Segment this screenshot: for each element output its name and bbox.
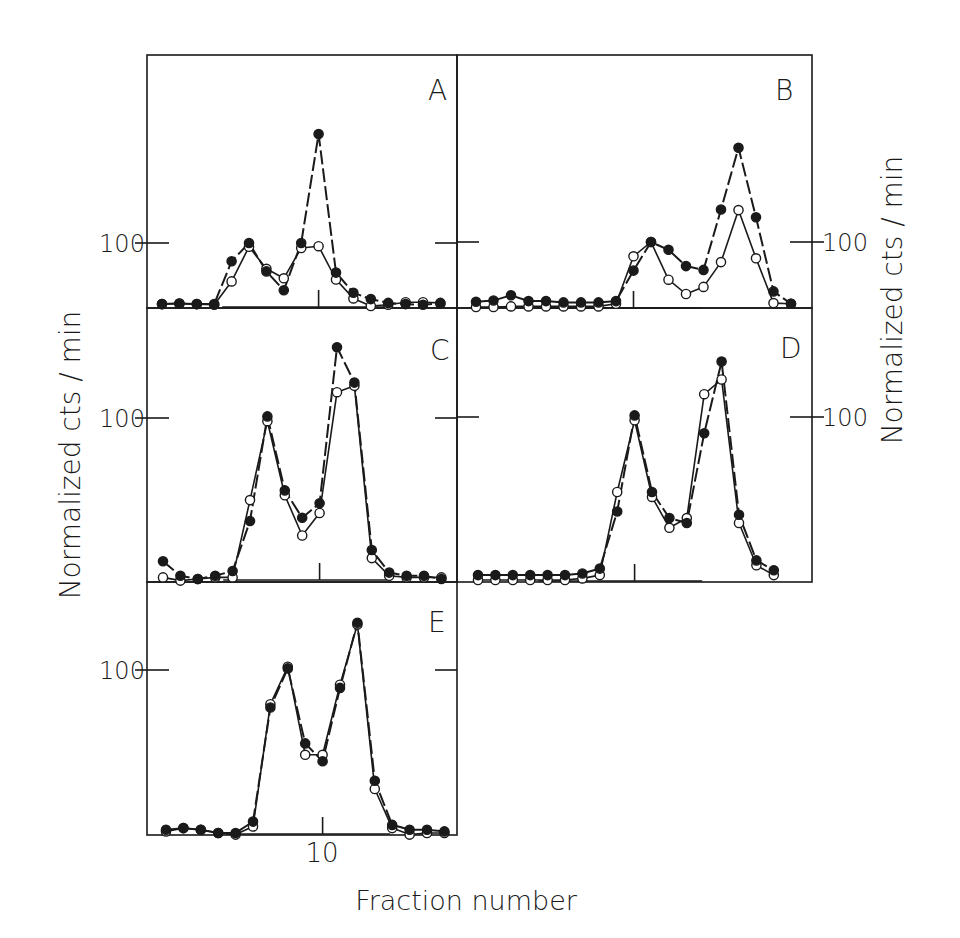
data-point-open bbox=[716, 258, 725, 267]
data-point-filled bbox=[227, 257, 236, 266]
y-tick-label-100: 100 bbox=[822, 229, 868, 257]
data-point-filled bbox=[353, 618, 362, 627]
data-point-open bbox=[158, 573, 167, 582]
data-point-filled bbox=[179, 824, 188, 833]
panel-frame bbox=[457, 308, 812, 582]
data-point-filled bbox=[349, 288, 358, 297]
data-point-filled bbox=[647, 487, 656, 496]
data-point-filled bbox=[734, 143, 743, 152]
data-point-filled bbox=[263, 412, 272, 421]
data-point-filled bbox=[176, 571, 185, 580]
data-point-filled bbox=[248, 817, 257, 826]
y-tick-label-100: 100 bbox=[99, 405, 145, 433]
data-point-filled bbox=[769, 566, 778, 575]
data-point-filled bbox=[440, 827, 449, 836]
series-line-filled bbox=[163, 347, 441, 579]
panel-label-b: B bbox=[775, 74, 793, 107]
panel-frame bbox=[147, 308, 457, 582]
y-tick-label-100: 100 bbox=[99, 657, 145, 685]
data-point-filled bbox=[298, 513, 307, 522]
data-point-open bbox=[279, 274, 288, 283]
data-point-filled bbox=[682, 518, 691, 527]
data-point-filled bbox=[367, 545, 376, 554]
data-point-filled bbox=[335, 683, 344, 692]
data-point-filled bbox=[161, 825, 170, 834]
data-point-filled bbox=[559, 298, 568, 307]
data-point-filled bbox=[401, 300, 410, 309]
data-point-filled bbox=[388, 820, 397, 829]
panel-frame bbox=[147, 582, 457, 835]
data-point-filled bbox=[752, 556, 761, 565]
data-point-filled bbox=[437, 574, 446, 583]
data-point-filled bbox=[419, 571, 428, 580]
data-point-filled bbox=[158, 557, 167, 566]
data-point-filled bbox=[370, 776, 379, 785]
data-point-filled bbox=[214, 828, 223, 837]
data-point-filled bbox=[279, 286, 288, 295]
data-point-open bbox=[717, 375, 726, 384]
data-point-open bbox=[301, 750, 310, 759]
series-line-filled bbox=[166, 623, 444, 833]
panel-d: 100D bbox=[457, 332, 868, 585]
y-axis-label-right: Normalized cts / min bbox=[876, 156, 909, 445]
data-point-filled bbox=[384, 298, 393, 307]
data-point-filled bbox=[332, 343, 341, 352]
data-point-filled bbox=[786, 299, 795, 308]
data-point-filled bbox=[734, 510, 743, 519]
data-point-filled bbox=[576, 298, 585, 307]
data-point-filled bbox=[769, 287, 778, 296]
y-tick-label-100: 100 bbox=[822, 404, 868, 432]
data-point-filled bbox=[560, 571, 569, 580]
data-point-open bbox=[769, 299, 778, 308]
data-point-filled bbox=[228, 566, 237, 575]
data-point-filled bbox=[385, 568, 394, 577]
data-point-filled bbox=[543, 571, 552, 580]
data-point-filled bbox=[331, 268, 340, 277]
data-point-filled bbox=[629, 266, 638, 275]
data-point-filled bbox=[283, 664, 292, 673]
data-point-filled bbox=[489, 296, 498, 305]
data-point-open bbox=[700, 390, 709, 399]
data-point-filled bbox=[751, 213, 760, 222]
series-line-open bbox=[166, 624, 444, 834]
data-point-filled bbox=[366, 295, 375, 304]
panel-frames bbox=[147, 55, 812, 835]
data-point-filled bbox=[473, 571, 482, 580]
data-point-open bbox=[699, 282, 708, 291]
data-point-filled bbox=[405, 825, 414, 834]
data-point-filled bbox=[471, 297, 480, 306]
data-point-filled bbox=[506, 291, 515, 300]
data-point-filled bbox=[717, 357, 726, 366]
data-point-filled bbox=[700, 429, 709, 438]
data-point-filled bbox=[699, 265, 708, 274]
series-line-open bbox=[478, 380, 774, 581]
data-point-filled bbox=[664, 245, 673, 254]
data-point-open bbox=[664, 275, 673, 284]
panel-label-c: C bbox=[430, 334, 450, 367]
data-point-filled bbox=[262, 267, 271, 276]
panel-b: 100B bbox=[457, 74, 868, 312]
series-line-filled bbox=[162, 134, 440, 305]
data-point-open bbox=[315, 508, 324, 517]
data-point-filled bbox=[245, 516, 254, 525]
panel-label-d: D bbox=[780, 332, 802, 365]
data-point-filled bbox=[665, 514, 674, 523]
data-point-filled bbox=[231, 828, 240, 837]
data-point-filled bbox=[541, 297, 550, 306]
panel-e: 100E bbox=[99, 606, 457, 839]
panel-label-e: E bbox=[428, 606, 446, 639]
data-point-filled bbox=[613, 507, 622, 516]
data-point-filled bbox=[508, 571, 517, 580]
data-point-filled bbox=[315, 499, 324, 508]
data-point-open bbox=[332, 388, 341, 397]
data-point-filled bbox=[193, 574, 202, 583]
data-point-filled bbox=[716, 205, 725, 214]
data-point-filled bbox=[630, 411, 639, 420]
data-point-filled bbox=[594, 298, 603, 307]
data-point-filled bbox=[175, 299, 184, 308]
data-point-filled bbox=[611, 297, 620, 306]
panel-frame bbox=[147, 55, 457, 308]
data-point-open bbox=[751, 254, 760, 263]
data-point-filled bbox=[280, 486, 289, 495]
data-point-filled bbox=[210, 300, 219, 309]
